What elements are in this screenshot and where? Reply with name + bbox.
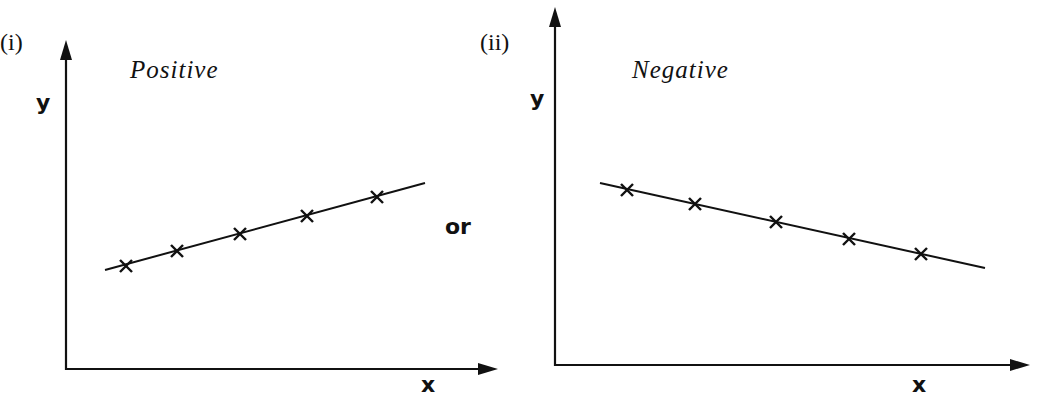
axes-lines bbox=[66, 54, 482, 369]
chart-title: Negative bbox=[631, 56, 729, 83]
separator-or-text: or bbox=[445, 214, 471, 239]
panel-label: (i) bbox=[0, 29, 23, 55]
x-axis-arrow-icon bbox=[478, 363, 498, 375]
chart-title: Positive bbox=[129, 56, 219, 83]
x-axis-arrow-icon bbox=[1010, 359, 1030, 371]
trend-line bbox=[600, 183, 985, 268]
x-axis-label: x bbox=[912, 372, 926, 397]
panel-label: (ii) bbox=[480, 29, 509, 55]
y-axis-label: y bbox=[36, 90, 50, 115]
chart-negative: (ii)Negativeyx bbox=[480, 7, 1030, 397]
x-axis-label: x bbox=[421, 372, 435, 397]
correlation-figure: (i)Positiveyx (ii)Negativeyx or bbox=[0, 0, 1042, 398]
chart-positive: (i)Positiveyx bbox=[0, 29, 498, 397]
y-axis-label: y bbox=[530, 86, 544, 111]
y-axis-arrow-icon bbox=[60, 40, 72, 60]
y-axis-arrow-icon bbox=[549, 7, 561, 27]
